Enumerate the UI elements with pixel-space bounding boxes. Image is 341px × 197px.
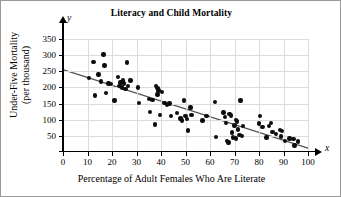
gridline-horizontal [63,136,308,137]
chart-figure: Literacy and Child Mortality x y Percent… [0,0,341,197]
data-point [234,136,238,140]
data-point [229,113,233,117]
y-axis-tick [59,55,64,56]
data-point [126,84,130,88]
data-point [291,137,295,141]
data-point [235,119,239,123]
y-axis-tick-label: 300 [23,50,56,60]
gridline-vertical [308,39,309,152]
x-axis-tick [161,152,162,156]
gridline-horizontal [63,39,308,40]
data-point [102,63,106,67]
x-axis-tick [235,152,236,156]
x-axis-variable-name: x [325,143,329,153]
data-point [185,117,189,121]
data-point [128,78,132,82]
data-point [296,139,300,143]
gridline-horizontal [63,55,308,56]
data-point [230,130,234,134]
y-axis-variable-name: y [67,13,71,23]
x-axis-arrow-icon [315,148,322,156]
y-axis-tick-label: 200 [23,82,56,92]
data-point [264,135,268,139]
y-axis-tick [59,104,64,105]
gridline-horizontal [63,87,308,88]
data-point [125,60,129,64]
y-axis-tick [59,39,64,40]
y-axis-tick-label: 250 [23,66,56,76]
data-point [200,118,204,122]
x-axis-tick-label: 100 [293,157,323,167]
data-point [240,134,244,138]
y-axis-tick [59,136,64,137]
data-point [153,122,157,126]
x-axis-label: Percentage of Adult Females Who Are Lite… [1,173,341,184]
y-axis-tick [59,87,64,88]
data-point [279,134,283,138]
data-point [182,98,186,102]
x-axis-tick [186,152,187,156]
y-axis-tick-label: 50 [23,131,56,141]
y-axis-tick-label: 100 [23,115,56,125]
y-axis-tick-label: 350 [23,34,56,44]
plot-area [63,39,308,152]
data-point [99,79,103,83]
data-point [112,98,116,102]
data-point [238,98,242,102]
data-point [96,72,100,76]
data-point [188,105,192,109]
x-axis-tick [137,152,138,156]
chart-title: Literacy and Child Mortality [1,8,341,18]
data-point [167,101,171,105]
data-point [155,92,159,96]
data-point [136,85,140,89]
data-point [189,113,193,117]
y-axis-tick [59,71,64,72]
data-point [260,125,264,129]
data-point [236,127,240,131]
data-point [169,114,173,118]
x-axis-tick [112,152,113,156]
data-point [93,93,97,97]
data-point [292,143,296,147]
x-axis-tick [63,152,64,156]
x-axis-tick [210,152,211,156]
y-axis-tick [59,120,64,121]
x-axis-tick [308,152,309,156]
data-point [226,140,230,144]
data-point [283,139,287,143]
data-point [180,118,184,122]
data-point [150,98,154,102]
data-point [158,113,162,117]
x-axis-tick [88,152,89,156]
data-point [87,76,91,80]
y-axis-label-line1: Under-Five Mortality [8,32,19,118]
data-point [204,114,208,118]
x-axis-tick [284,152,285,156]
gridline-horizontal [63,104,308,105]
x-axis-tick [259,152,260,156]
x-axis-line [59,151,317,152]
y-axis-tick-label: 150 [23,99,56,109]
data-point [186,128,190,132]
data-point [101,52,105,56]
